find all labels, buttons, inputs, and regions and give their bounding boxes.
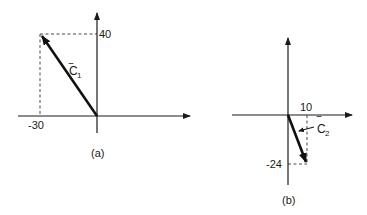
vector-c2-label: ‾ C 2 bbox=[316, 115, 330, 138]
vector-c1-label: ‾ C 1 bbox=[68, 62, 82, 80]
figure-a: 40 -30 ‾ C 1 (a) bbox=[18, 13, 190, 159]
vector-c2-subscript: 2 bbox=[325, 129, 330, 138]
caption-a: (a) bbox=[91, 147, 104, 159]
x-value-label-a: -30 bbox=[28, 119, 44, 131]
vector-c2-arrow bbox=[288, 115, 306, 162]
figure-b: 10 -24 ‾ C 2 (b) bbox=[232, 38, 352, 206]
y-value-label-b: -24 bbox=[266, 158, 282, 170]
x-value-label-b: 10 bbox=[300, 101, 312, 113]
caption-b: (b) bbox=[282, 194, 295, 206]
vector-c2-leader-arrow bbox=[299, 127, 314, 131]
y-value-label-a: 40 bbox=[99, 28, 111, 40]
vector-c1-subscript: 1 bbox=[77, 71, 82, 80]
vector-diagram: 40 -30 ‾ C 1 (a) 10 -24 ‾ C 2 (b) bbox=[0, 0, 367, 215]
